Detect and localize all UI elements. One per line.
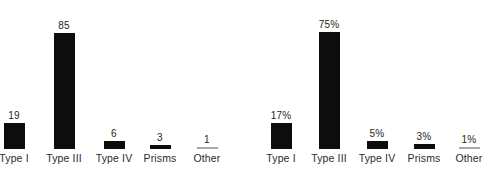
plot-area-percentages: 17% 75% 5% 3% — [245, 0, 489, 149]
bar-value-label: 3% — [417, 131, 432, 142]
figure-canvas: 19 85 6 3 — [0, 0, 489, 177]
bar — [319, 32, 340, 149]
bar-value-label: 17% — [271, 110, 292, 121]
x-axis-tick-label: Other — [435, 152, 489, 165]
bar-column: 3 — [136, 0, 184, 149]
bar-value-label: 85 — [58, 20, 70, 31]
bar — [4, 123, 25, 149]
bar — [459, 147, 480, 149]
bar — [54, 33, 75, 149]
bar — [150, 145, 171, 149]
bar-value-label: 5% — [370, 128, 385, 139]
bar-column: 17% — [257, 0, 305, 149]
bar-column: 1 — [183, 0, 231, 149]
bar-value-label: 19 — [8, 110, 20, 121]
bar-column: 1% — [445, 0, 489, 149]
bar-column: 75% — [305, 0, 353, 149]
bar-column: 6 — [90, 0, 138, 149]
bar — [271, 123, 292, 149]
bar-value-label: 1 — [204, 134, 210, 145]
bar — [197, 147, 218, 149]
bar-value-label: 6 — [111, 128, 117, 139]
x-axis-labels-percentages: Type I Type III Type IV Prisms Other — [245, 152, 489, 172]
x-axis-tick-label: Other — [173, 152, 241, 165]
bar-column: 85 — [40, 0, 88, 149]
bar-value-label: 1% — [462, 134, 477, 145]
bar-column: 5% — [353, 0, 401, 149]
bar-value-label: 75% — [319, 19, 340, 30]
bar-column: 19 — [0, 0, 38, 149]
bar-chart-percentages: 17% 75% 5% 3% — [245, 0, 489, 177]
bar-value-label: 3 — [157, 132, 163, 143]
bar — [367, 141, 388, 149]
plot-area-counts: 19 85 6 3 — [0, 0, 245, 149]
x-axis-labels-counts: Type I Type III Type IV Prisms Other — [0, 152, 245, 172]
bar-column: 3% — [400, 0, 448, 149]
bar-chart-counts: 19 85 6 3 — [0, 0, 245, 177]
bar — [104, 141, 125, 149]
bar — [414, 144, 435, 149]
